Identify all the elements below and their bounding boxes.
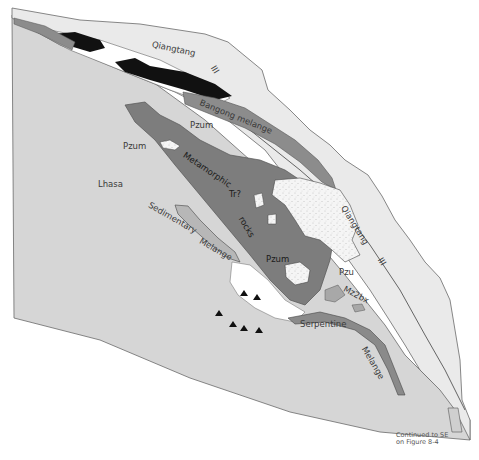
granite-body-small-1: [254, 193, 264, 208]
geologic-map: Qiangtang III Bangong melange Pzum Pzum …: [0, 0, 479, 460]
label-pzum-left: Pzum: [123, 142, 146, 151]
label-pzum-upper: Pzum: [190, 121, 213, 130]
label-pzu: Pzu: [339, 268, 354, 277]
map-canvas: [0, 0, 479, 460]
label-tr: Tr?: [229, 190, 241, 199]
label-pzum-center: Pzum: [266, 255, 289, 264]
note-line-2: on Figure 8-4: [396, 439, 448, 446]
label-lhasa: Lhasa: [98, 180, 123, 189]
label-serpentine: Serpentine: [300, 320, 346, 329]
granite-body-small-2: [268, 214, 276, 224]
continuation-note: Continued to SE on Figure 8-4: [396, 432, 448, 447]
